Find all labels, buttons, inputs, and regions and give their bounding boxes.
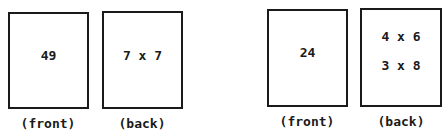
card-front-value: 24 bbox=[269, 45, 346, 60]
card-back-2: 4 x 6 3 x 8 bbox=[360, 8, 442, 107]
card-back-label: (back) bbox=[351, 114, 447, 129]
card-front-label: (front) bbox=[0, 116, 98, 131]
card-front-2: 24 bbox=[267, 9, 348, 107]
card-front-label: (front) bbox=[257, 114, 357, 129]
card-back-1: 7 x 7 bbox=[102, 11, 183, 109]
card-back-label: (back) bbox=[92, 116, 192, 131]
card-back-line: 3 x 8 bbox=[362, 58, 440, 73]
card-front-1: 49 bbox=[8, 12, 89, 109]
card-back-line: 7 x 7 bbox=[104, 48, 181, 63]
card-back-line: 4 x 6 bbox=[362, 29, 440, 44]
card-front-value: 49 bbox=[10, 48, 87, 63]
